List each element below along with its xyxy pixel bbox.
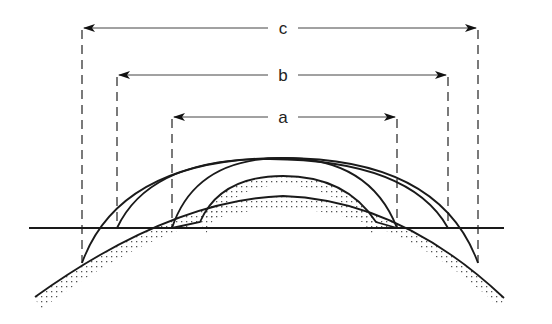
outer-arc-c [82,158,478,263]
dimension-a: a [174,108,395,127]
label-a: a [278,108,288,127]
diagram-canvas: c b a [0,0,552,324]
dimension-b: b [119,66,446,85]
label-b: b [278,66,287,85]
sclera-stipple [35,196,504,310]
dimension-c: c [84,19,476,38]
label-c: c [279,19,288,38]
middle-arc-b [117,159,448,228]
